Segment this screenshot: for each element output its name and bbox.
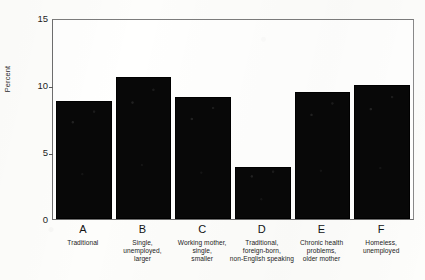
x-axis-category-description-line: unemployed bbox=[333, 247, 425, 255]
bar-series bbox=[53, 20, 413, 219]
x-axis-category-f: FHomeless,unemployed bbox=[333, 223, 425, 255]
plot-area bbox=[52, 19, 414, 220]
y-axis-tick-label: 15 bbox=[14, 14, 48, 24]
y-axis-tick-label: 10 bbox=[14, 81, 48, 91]
bar bbox=[175, 97, 231, 219]
bar bbox=[56, 101, 112, 219]
x-axis-category-letter: F bbox=[333, 223, 425, 236]
y-axis-tick-label: 5 bbox=[14, 148, 48, 158]
x-axis-category-description-line: Homeless, bbox=[333, 239, 425, 247]
bar bbox=[295, 92, 351, 219]
y-axis-tick-mark bbox=[49, 87, 53, 88]
bar bbox=[235, 167, 291, 219]
bar bbox=[354, 85, 410, 219]
bar-chart-figure: Percent 051015 ATraditionalBSingle,unemp… bbox=[0, 0, 425, 280]
y-axis-title: Percent bbox=[3, 44, 12, 114]
x-axis-tick-labels: ATraditionalBSingle,unemployed,largerCWo… bbox=[52, 223, 414, 280]
y-axis-tick-mark bbox=[49, 154, 53, 155]
x-axis-category-description: Homeless,unemployed bbox=[333, 239, 425, 255]
bar bbox=[116, 77, 172, 219]
x-axis-category-description-line: older mother bbox=[274, 255, 370, 263]
